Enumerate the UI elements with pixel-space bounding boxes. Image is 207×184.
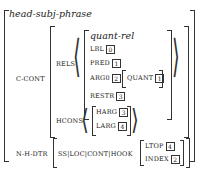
arg0-attr: ARG0 — [90, 74, 110, 82]
hcons-right-angle: ⟩ — [131, 105, 139, 133]
harg-row: HARG3 — [96, 108, 128, 117]
larg-row: LARG4 — [96, 122, 127, 131]
hook-bracket-left — [140, 140, 144, 166]
lbl-row: LBL0 — [90, 45, 115, 54]
hcons-label: HCONS — [56, 117, 83, 125]
index-attr: INDEX — [145, 155, 169, 163]
hcons-left-angle: ⟨ — [81, 105, 89, 133]
avm-type: head-subj-phrase — [9, 8, 92, 19]
c-cont-label: C-CONT — [16, 75, 45, 83]
larg-tag: 4 — [118, 122, 127, 131]
quant-row: QUANT1 — [127, 74, 164, 83]
arg0-tag: 2 — [112, 74, 121, 83]
n-h-dtr-path: SS|LOC|CONT|HOOK — [58, 150, 133, 158]
n-h-dtr-bracket-left — [53, 138, 57, 168]
c-cont-bracket-right — [184, 26, 189, 138]
outer-bracket-left — [4, 10, 9, 162]
n-h-dtr-label: N-H-DTR — [16, 150, 48, 158]
lbl-attr: LBL — [90, 45, 104, 53]
quant-tag: 1 — [155, 74, 164, 83]
index-row: INDEX2 — [145, 155, 180, 164]
rels-left-angle: ⟨ — [73, 34, 81, 78]
restr-attr: RESTR — [90, 92, 114, 100]
n-h-dtr-bracket-right — [186, 138, 190, 168]
c-cont-bracket-left — [50, 26, 55, 138]
restr-row: RESTR3 — [90, 92, 125, 101]
hook-bracket-right — [180, 140, 184, 166]
outer-bracket-right — [190, 10, 195, 162]
ltop-row: LTOP4 — [145, 142, 175, 151]
restr-tag: 3 — [116, 92, 125, 101]
larg-attr: LARG — [96, 122, 116, 130]
rels-right-angle: ⟩ — [172, 34, 180, 78]
quant-attr: QUANT — [127, 74, 153, 82]
lbl-tag: 0 — [106, 45, 115, 54]
harg-attr: HARG — [96, 108, 117, 116]
arg0-row: ARG02 — [90, 74, 121, 83]
pred-tag: 1 — [112, 59, 121, 68]
pred-attr: PRED — [90, 59, 110, 67]
rels-type: quant-rel — [90, 30, 134, 41]
pred-row: PRED1 — [90, 59, 121, 68]
index-tag: 2 — [171, 155, 180, 164]
harg-tag: 3 — [119, 108, 128, 117]
ltop-attr: LTOP — [145, 142, 164, 150]
rels-bracket-right — [167, 30, 172, 120]
ltop-tag: 4 — [166, 142, 175, 151]
quant-bracket-left — [122, 70, 126, 88]
